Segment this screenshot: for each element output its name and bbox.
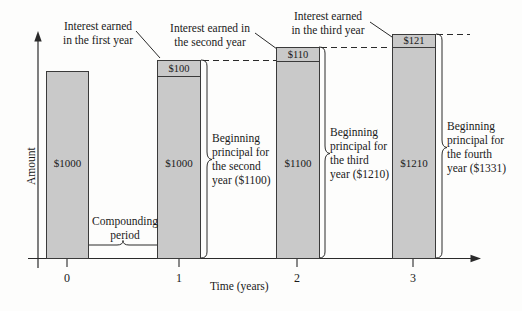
- x-tick-label-0: 0: [57, 272, 77, 284]
- annotation-principal-fourth-year-line4: year ($1331): [447, 161, 517, 175]
- principal-brace-fourth-year: [436, 34, 447, 258]
- x-axis-title: Time (years): [210, 281, 269, 293]
- y-axis-title: Amount: [26, 147, 38, 185]
- principal-brace-second-year: [201, 60, 212, 258]
- annotation-principal-second-year: Beginning principal for the second year …: [212, 131, 278, 187]
- annotation-principal-second-year-line2: principal for: [212, 145, 278, 159]
- annotation-principal-fourth-year-line2: principal for: [447, 133, 517, 147]
- annotation-interest-first-year-line2: in the first year: [52, 33, 144, 47]
- x-tick-label-2: 2: [287, 272, 307, 284]
- annotation-principal-fourth-year-line1: Beginning: [447, 119, 517, 133]
- annotation-compounding-period-line1: Compounding: [85, 214, 165, 228]
- annotation-interest-first-year-line1: Interest earned: [52, 19, 144, 33]
- bar-year-1-interest-label: $100: [157, 64, 201, 75]
- x-tick-label-3: 3: [403, 272, 423, 284]
- annotation-interest-third-year-line2: in the third year: [282, 23, 374, 37]
- annotation-interest-third-year-line1: Interest earned: [282, 9, 374, 23]
- bar-year-0-principal-label: $1000: [46, 158, 89, 169]
- annotation-interest-third-year: Interest earned in the third year: [282, 9, 374, 37]
- annotation-principal-second-year-line1: Beginning: [212, 131, 278, 145]
- annotation-principal-second-year-line4: year ($1100): [212, 173, 278, 187]
- bar-year-1-principal-label: $1000: [157, 158, 201, 169]
- x-axis-ticks: [67, 259, 413, 268]
- annotation-principal-fourth-year-line3: the fourth: [447, 147, 517, 161]
- bar-year-3-principal-label: $1210: [392, 158, 436, 169]
- annotation-interest-second-year: Interest earned in the second year: [160, 21, 260, 49]
- annotation-principal-third-year-line4: year ($1210): [330, 167, 396, 181]
- annotation-interest-second-year-line2: the second year: [160, 35, 260, 49]
- x-tick-label-1: 1: [169, 272, 189, 284]
- annotation-compounding-period: Compounding period: [85, 214, 165, 242]
- principal-brace-third-year: [319, 47, 330, 258]
- annotation-interest-second-year-line1: Interest earned in: [160, 21, 260, 35]
- annotation-principal-third-year: Beginning principal for the third year (…: [330, 125, 396, 181]
- bar-year-3-interest-label: $121: [392, 36, 436, 47]
- annotation-compounding-period-line2: period: [85, 228, 165, 242]
- annotation-principal-fourth-year: Beginning principal for the fourth year …: [447, 119, 517, 175]
- bar-year-2-principal-label: $1100: [276, 158, 320, 169]
- annotation-principal-third-year-line1: Beginning: [330, 125, 396, 139]
- annotation-principal-third-year-line3: the third: [330, 153, 396, 167]
- annotation-principal-third-year-line2: principal for: [330, 139, 396, 153]
- bar-year-3-principal: [392, 47, 436, 259]
- annotation-interest-first-year: Interest earned in the first year: [52, 19, 144, 47]
- compound-interest-diagram: $1000 $100 $1000 $110 $1100 $121 $1210 A…: [0, 0, 522, 311]
- annotation-principal-second-year-line3: the second: [212, 159, 278, 173]
- bar-year-2-interest-label: $110: [276, 50, 320, 61]
